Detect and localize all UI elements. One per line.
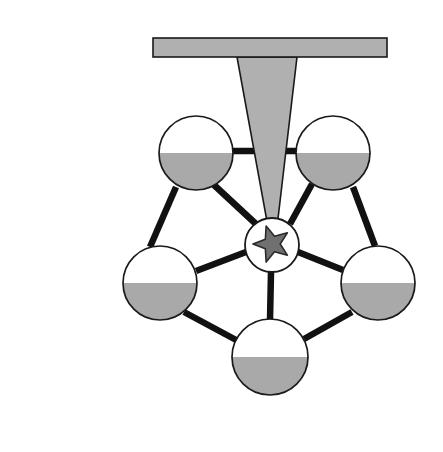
bottom-gauge-node[interactable] <box>232 319 308 433</box>
edge-top-right-right <box>353 187 375 246</box>
top-left-gauge-node[interactable] <box>159 116 233 227</box>
diagram-canvas <box>0 0 443 452</box>
tapered-cone-shape <box>237 57 297 227</box>
edge-center-left <box>196 252 246 271</box>
horizontal-bar-shape <box>153 38 387 57</box>
edge-center-bottom <box>270 272 271 320</box>
edge-center-top-left <box>214 185 256 224</box>
edge-center-right <box>298 252 343 270</box>
right-gauge-node[interactable] <box>341 246 415 357</box>
edge-right-bottom <box>304 312 352 339</box>
left-gauge-node[interactable] <box>123 246 197 357</box>
center-star-node[interactable] <box>245 218 299 272</box>
edge-left-bottom <box>184 312 238 341</box>
edge-center-top-right <box>290 184 312 224</box>
network-diagram <box>0 0 443 452</box>
edge-top-left-left <box>150 187 176 247</box>
